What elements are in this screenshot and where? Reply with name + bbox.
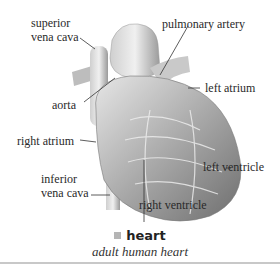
label-line: superior — [31, 16, 79, 30]
label-left-ventricle: left ventricle — [203, 160, 264, 174]
label-superior-vena-cava: superior vena cava — [31, 16, 79, 44]
bottom-divider — [0, 262, 280, 264]
caption-marker-icon — [114, 232, 121, 239]
label-line: vena cava — [41, 186, 89, 200]
caption-title-text: heart — [126, 228, 165, 243]
caption-subtitle: adult human heart — [0, 244, 280, 260]
label-inferior-vena-cava: inferior vena cava — [41, 172, 89, 200]
label-right-ventricle: right ventricle — [139, 198, 207, 212]
label-left-atrium: left atrium — [205, 81, 255, 95]
label-line: vena cava — [31, 30, 79, 44]
caption-title: heart — [0, 228, 280, 243]
label-pulmonary-artery: pulmonary artery — [162, 17, 245, 31]
label-right-atrium: right atrium — [17, 134, 74, 148]
label-aorta: aorta — [52, 98, 76, 112]
label-line: inferior — [41, 172, 89, 186]
